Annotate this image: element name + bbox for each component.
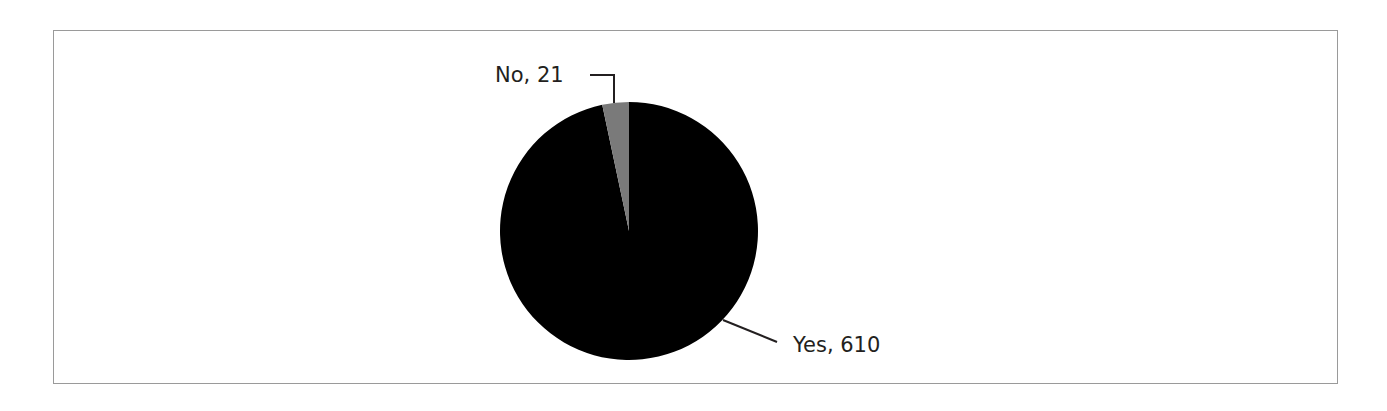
no-leader-line (590, 75, 614, 103)
pie-chart: No, 21 Yes, 610 (0, 0, 1387, 411)
no-label: No, 21 (495, 63, 564, 87)
yes-leader-line (723, 320, 777, 342)
yes-label: Yes, 610 (792, 333, 880, 357)
